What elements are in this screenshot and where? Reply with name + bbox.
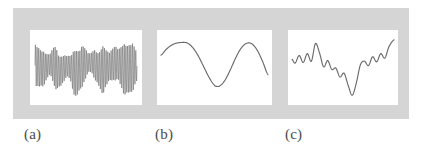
figure-root: (a) (b) (c): [0, 0, 423, 158]
waveform-dense-signal: [30, 30, 142, 105]
caption-label-a: (a): [24, 126, 41, 143]
caption-row: (a) (b) (c): [0, 126, 423, 154]
caption-label-c: (c): [285, 126, 302, 143]
plot-panel-c: [288, 30, 398, 105]
waveform-irregular-signal: [288, 30, 398, 105]
caption-label-b: (b): [155, 126, 173, 143]
waveform-sinusoid: [157, 30, 272, 105]
plot-panel-b: [157, 30, 272, 105]
plot-panel-a: [30, 30, 142, 105]
